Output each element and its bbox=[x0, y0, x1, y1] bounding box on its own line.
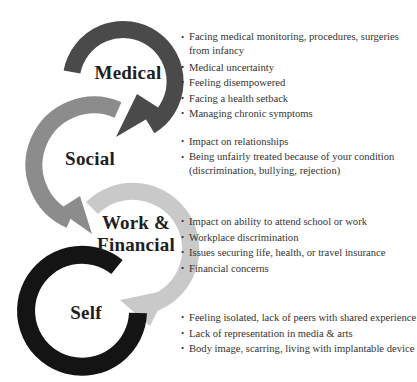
list-item: •Body image, scarring, living with impla… bbox=[181, 341, 417, 357]
list-item: •Being unfairly treated because of your … bbox=[181, 150, 417, 178]
bullet-icon: • bbox=[181, 326, 184, 342]
list-item: •Financial concerns bbox=[181, 261, 417, 277]
list-item-text: Being unfairly treated because of your c… bbox=[189, 151, 394, 176]
bullet-icon: • bbox=[181, 261, 184, 277]
list-item-text: Feeling isolated, lack of peers with sha… bbox=[189, 312, 416, 323]
bullet-icon: • bbox=[181, 30, 184, 44]
medical-list: •Facing medical monitoring, procedures, … bbox=[181, 30, 417, 122]
list-item: •Medical uncertainty bbox=[181, 60, 417, 76]
list-item-text: Lack of representation in media & arts bbox=[189, 328, 353, 339]
list-item-text: Financial concerns bbox=[189, 263, 269, 274]
list-item: •Impact on ability to attend school or w… bbox=[181, 214, 417, 230]
list-item: •Managing chronic symptoms bbox=[181, 106, 417, 122]
section-label-social: Social bbox=[55, 148, 125, 170]
list-item-text: Managing chronic symptoms bbox=[189, 108, 313, 119]
bullet-icon: • bbox=[181, 230, 184, 246]
list-item-text: Facing a health setback bbox=[189, 93, 288, 104]
list-item-text: Feeling disempowered bbox=[189, 77, 285, 88]
bullet-icon: • bbox=[181, 134, 184, 150]
list-item: •Workplace discrimination bbox=[181, 230, 417, 246]
list-item-text: Impact on relationships bbox=[189, 136, 288, 147]
bullet-icon: • bbox=[181, 106, 184, 122]
bullet-icon: • bbox=[181, 310, 184, 326]
bullet-icon: • bbox=[181, 341, 184, 357]
list-item-text: Facing medical monitoring, procedures, s… bbox=[189, 31, 399, 56]
list-item-text: Impact on ability to attend school or wo… bbox=[189, 216, 367, 227]
list-item-text: Body image, scarring, living with implan… bbox=[189, 343, 414, 354]
list-item-text: Workplace discrimination bbox=[189, 232, 298, 243]
list-item: •Impact on relationships bbox=[181, 134, 417, 150]
bullet-icon: • bbox=[181, 214, 184, 230]
list-item-text: Issues securing life, health, or travel … bbox=[189, 247, 386, 258]
bullet-icon: • bbox=[181, 150, 184, 164]
list-item: •Facing medical monitoring, procedures, … bbox=[181, 30, 417, 58]
social-list: •Impact on relationships •Being unfairly… bbox=[181, 134, 417, 179]
bullet-icon: • bbox=[181, 91, 184, 107]
list-item: •Lack of representation in media & arts bbox=[181, 326, 417, 342]
section-label-work-financial: Work & Financial bbox=[84, 212, 188, 256]
list-item: •Feeling disempowered bbox=[181, 75, 417, 91]
bullet-icon: • bbox=[181, 75, 184, 91]
bullet-icon: • bbox=[181, 60, 184, 76]
section-label-medical: Medical bbox=[88, 62, 168, 84]
list-item: •Feeling isolated, lack of peers with sh… bbox=[181, 310, 417, 326]
section-label-work-line: Work & bbox=[84, 212, 188, 234]
bullet-icon: • bbox=[181, 245, 184, 261]
work-financial-list: •Impact on ability to attend school or w… bbox=[181, 214, 417, 276]
list-item: •Facing a health setback bbox=[181, 91, 417, 107]
section-label-self: Self bbox=[56, 302, 116, 324]
self-list: •Feeling isolated, lack of peers with sh… bbox=[181, 310, 417, 357]
section-label-financial-line: Financial bbox=[84, 234, 188, 256]
list-item-text: Medical uncertainty bbox=[189, 62, 274, 73]
list-item: •Issues securing life, health, or travel… bbox=[181, 245, 417, 261]
